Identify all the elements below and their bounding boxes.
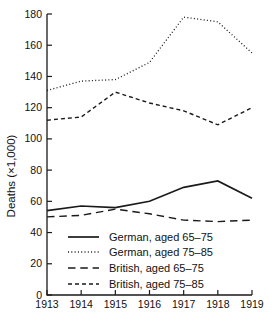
legend-line-sample-long-dash (67, 264, 100, 272)
legend-line-sample-dotted (67, 248, 100, 256)
y-tick-label: 160 (24, 39, 42, 51)
y-tick-label: 80 (30, 164, 42, 176)
legend-label: German, aged 65–75 (109, 231, 213, 243)
y-tick-label: 100 (24, 132, 42, 144)
legend-label: British, aged 65–75 (109, 262, 204, 274)
y-tick-label: 140 (24, 70, 42, 82)
legend-label: German, aged 75–85 (109, 246, 213, 258)
x-tick-label: 1918 (206, 298, 230, 310)
series-line-2 (47, 17, 252, 90)
y-tick-label: 60 (30, 195, 42, 207)
y-axis-title: Deaths (×1,000) (5, 135, 17, 218)
legend-item: German, aged 75–85 (67, 245, 213, 261)
x-tick-label: 1916 (138, 298, 162, 310)
x-tick-label: 1919 (240, 298, 264, 310)
legend-label: British, aged 75–85 (109, 278, 204, 290)
y-tick-label: 180 (24, 8, 42, 20)
x-tick-label: 1913 (35, 298, 59, 310)
x-tick-label: 1914 (69, 298, 93, 310)
legend: German, aged 65–75 German, aged 75–85 Br… (67, 229, 213, 291)
legend-line-sample-solid (67, 233, 100, 241)
legend-item: German, aged 65–75 (67, 229, 213, 245)
legend-line-sample-short-dash (67, 280, 100, 288)
series-line-3 (47, 209, 252, 222)
legend-item: British, aged 75–85 (67, 276, 213, 292)
x-tick-label: 1915 (104, 298, 128, 310)
y-tick-label: 120 (24, 101, 42, 113)
series-line-4 (47, 92, 252, 125)
y-tick-label: 40 (30, 226, 42, 238)
series-line-1 (47, 181, 252, 211)
legend-item: British, aged 65–75 (67, 260, 213, 276)
x-tick-label: 1917 (172, 298, 196, 310)
mortality-line-chart: 0204060801001201401601801913191419151916… (0, 0, 275, 323)
y-tick-label: 20 (30, 257, 42, 269)
